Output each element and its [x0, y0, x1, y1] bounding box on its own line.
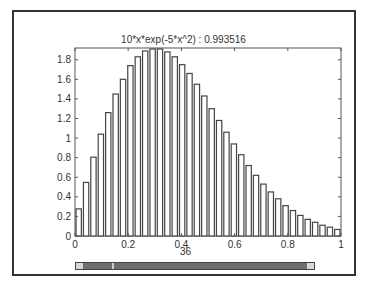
bar: [106, 113, 111, 236]
bar: [91, 157, 96, 236]
bar: [165, 52, 170, 236]
y-tick-label: 0.4: [57, 191, 71, 202]
bar: [268, 192, 273, 236]
bar: [187, 73, 192, 236]
horizontal-scrollbar[interactable]: [75, 262, 315, 270]
scrollbar-thumb[interactable]: [112, 263, 114, 269]
bar: [327, 227, 332, 236]
bar: [128, 66, 133, 236]
x-tick-label: 0.2: [121, 239, 135, 250]
scroll-left-arrow-icon[interactable]: [76, 263, 83, 269]
bar: [98, 134, 103, 236]
bar: [253, 175, 258, 236]
bar: [150, 49, 155, 236]
y-tick-label: 1.2: [57, 113, 71, 124]
bar: [194, 84, 199, 236]
bar: [276, 199, 281, 236]
bar: [76, 209, 81, 236]
bar: [224, 132, 229, 236]
bar: [120, 79, 125, 236]
bar: [135, 57, 140, 236]
x-tick-label: 1: [338, 239, 344, 250]
x-axis-label: 36: [180, 246, 191, 257]
bar: [157, 49, 162, 236]
y-tick-label: 0.2: [57, 211, 71, 222]
y-tick-label: 0.8: [57, 152, 71, 163]
bar: [283, 206, 288, 236]
bar: [239, 155, 244, 236]
y-tick-label: 1.4: [57, 93, 71, 104]
bar: [113, 94, 118, 236]
bar: [216, 120, 221, 236]
bar: [179, 65, 184, 236]
y-tick-label: 1.6: [57, 74, 71, 85]
bar: [261, 184, 266, 236]
y-tick-label: 1: [65, 133, 71, 144]
y-tick-label: 0: [65, 231, 71, 242]
bar: [246, 166, 251, 237]
bar: [83, 182, 88, 236]
scroll-right-arrow-icon[interactable]: [307, 263, 314, 269]
bar: [312, 222, 317, 236]
bar: [209, 109, 214, 236]
bar: [320, 225, 325, 236]
bar: [231, 144, 236, 236]
bar: [202, 96, 207, 236]
x-tick-label: 0.6: [228, 239, 242, 250]
bar: [172, 57, 177, 236]
bar: [305, 219, 310, 236]
y-tick-label: 1.8: [57, 54, 71, 65]
bar: [298, 215, 303, 236]
x-tick-label: 0.8: [281, 239, 295, 250]
x-tick-label: 0: [72, 239, 78, 250]
y-tick-label: 0.6: [57, 172, 71, 183]
bar: [290, 211, 295, 236]
bar: [143, 51, 148, 236]
bar: [335, 229, 340, 236]
